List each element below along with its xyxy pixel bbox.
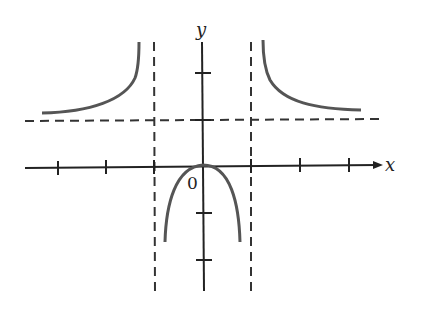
graph: y x 0	[0, 0, 422, 319]
y-axis-label: y	[195, 19, 207, 40]
x-axis-label: x	[385, 154, 395, 175]
x-axis-arrow	[373, 161, 383, 169]
origin-label: 0	[187, 173, 198, 193]
right-branch-curve	[263, 40, 361, 110]
left-branch-curve	[42, 42, 139, 113]
